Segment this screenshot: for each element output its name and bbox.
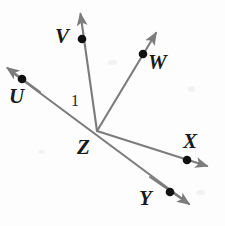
point-label-V: V (55, 26, 69, 47)
point-U (18, 75, 27, 84)
figure-canvas (0, 0, 225, 226)
scan-speck (108, 60, 117, 65)
scan-speck (188, 86, 195, 92)
ray-ZW (97, 33, 156, 131)
scan-speck (196, 190, 205, 195)
ray-ZV (81, 14, 98, 131)
point-label-X: X (183, 131, 197, 152)
geometry-figure: U V W X Y Z 1 (0, 0, 225, 226)
point-W (139, 50, 148, 59)
point-X (183, 156, 192, 165)
angle-label-1: 1 (71, 93, 79, 109)
scan-speck (38, 150, 45, 154)
point-Y (166, 188, 175, 197)
point-label-Y: Y (139, 188, 152, 209)
point-label-U: U (9, 86, 24, 107)
point-V (78, 35, 87, 44)
point-label-W: W (148, 52, 167, 73)
point-label-Z: Z (77, 137, 90, 158)
